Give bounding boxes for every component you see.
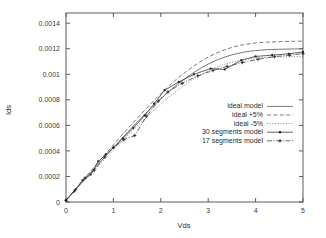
legend-label: ideal -5% xyxy=(234,120,263,127)
series-marker xyxy=(254,55,256,57)
x-tick-label: 0 xyxy=(64,207,68,214)
series-marker xyxy=(132,127,134,129)
legend-label: ideal +5% xyxy=(232,111,263,118)
y-tick-label: 0.0004 xyxy=(39,148,61,155)
x-axis-ticks: 012345 xyxy=(64,13,305,214)
y-tick-label: 0.001 xyxy=(42,71,60,78)
x-tick-label: 3 xyxy=(206,207,210,214)
series-marker xyxy=(133,134,136,137)
series-marker xyxy=(178,81,180,83)
series-marker xyxy=(224,68,226,70)
chart-figure: 00.00020.00040.00060.00080.0010.00120.00… xyxy=(0,0,326,238)
y-tick-label: 0.0014 xyxy=(39,20,61,27)
legend-label: ideal model xyxy=(227,102,263,109)
chart-legend: ideal modelideal +5%ideal -5%30 segments… xyxy=(202,102,293,144)
series-marker xyxy=(193,73,195,75)
data-markers xyxy=(64,51,304,202)
series-marker xyxy=(81,179,83,181)
series-marker xyxy=(90,173,92,175)
x-tick-label: 4 xyxy=(254,207,258,214)
y-tick-label: 0.0012 xyxy=(39,45,61,52)
series-marker xyxy=(153,103,155,105)
series-marker xyxy=(196,74,199,77)
x-tick-label: 1 xyxy=(111,207,115,214)
x-tick-label: 2 xyxy=(159,207,163,214)
y-tick-label: 0.0006 xyxy=(39,122,61,129)
legend-label: 30 segments model xyxy=(202,128,264,136)
y-tick-label: 0 xyxy=(56,199,60,206)
y-axis-title: Ids xyxy=(4,105,13,115)
series-marker xyxy=(271,54,273,56)
y-axis-ticks: 00.00020.00040.00060.00080.0010.00120.00… xyxy=(39,20,303,206)
series-line xyxy=(66,41,303,200)
x-tick-label: 5 xyxy=(301,207,305,214)
chart-canvas: 00.00020.00040.00060.00080.0010.00120.00… xyxy=(0,0,326,238)
series-line xyxy=(66,49,303,200)
series-marker xyxy=(105,153,107,155)
series-marker xyxy=(97,160,99,162)
legend-label: 17 segments model xyxy=(202,137,264,145)
plot-frame xyxy=(66,13,303,202)
series-line xyxy=(66,56,303,200)
series-marker xyxy=(163,89,165,91)
y-tick-label: 0.0008 xyxy=(39,96,61,103)
y-tick-label: 0.0002 xyxy=(39,173,61,180)
data-curves xyxy=(66,41,303,200)
series-marker xyxy=(273,55,276,58)
series-marker xyxy=(209,67,211,69)
series-line xyxy=(66,54,303,201)
series-marker xyxy=(73,190,75,192)
series-line xyxy=(66,52,303,201)
series-marker xyxy=(211,69,214,72)
x-axis-title: Vds xyxy=(178,221,191,230)
